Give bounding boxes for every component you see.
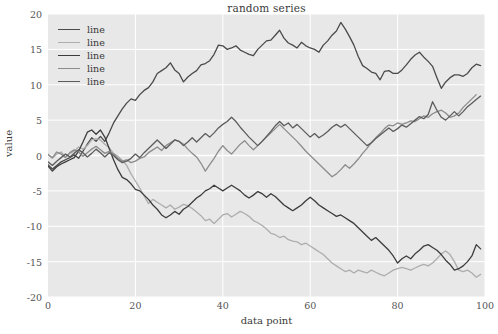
y-tick-label: 10 (0, 79, 42, 90)
legend-item-1[interactable]: line (58, 36, 105, 49)
legend-swatch-icon (58, 55, 80, 56)
series-line-4 (48, 96, 481, 165)
series-line-3 (48, 95, 476, 177)
chart-figure: random series linelinelinelineline 20151… (0, 0, 498, 334)
x-tick-label: 20 (115, 300, 155, 311)
x-tick-label: 0 (28, 300, 68, 311)
legend-item-2[interactable]: line (58, 49, 105, 62)
series-line-2 (48, 130, 481, 270)
x-tick-label: 60 (290, 300, 330, 311)
legend-label: line (87, 62, 105, 75)
y-axis-label: value (3, 114, 14, 174)
legend-item-0[interactable]: line (58, 23, 105, 36)
chart-title: random series (48, 2, 485, 14)
legend-label: line (87, 49, 105, 62)
legend-label: line (87, 75, 105, 88)
series-line-0 (48, 22, 481, 168)
legend-label: line (87, 23, 105, 36)
legend-item-3[interactable]: line (58, 62, 105, 75)
y-tick-label: 20 (0, 9, 42, 20)
x-axis-label: data point (48, 315, 485, 326)
legend-swatch-icon (58, 81, 80, 82)
x-tick-label: 80 (378, 300, 418, 311)
legend-label: line (87, 36, 105, 49)
legend: linelinelinelineline (54, 20, 111, 91)
plot-area: linelinelinelineline (48, 14, 485, 297)
series-lines (48, 14, 485, 297)
y-tick-label: 15 (0, 44, 42, 55)
y-tick-label: -15 (0, 256, 42, 267)
y-tick-label: -5 (0, 185, 42, 196)
x-tick-label: 40 (203, 300, 243, 311)
y-tick-label: -10 (0, 221, 42, 232)
legend-swatch-icon (58, 68, 80, 69)
x-tick-label: 100 (465, 300, 498, 311)
legend-item-4[interactable]: line (58, 75, 105, 88)
legend-swatch-icon (58, 42, 80, 43)
legend-swatch-icon (58, 29, 80, 30)
